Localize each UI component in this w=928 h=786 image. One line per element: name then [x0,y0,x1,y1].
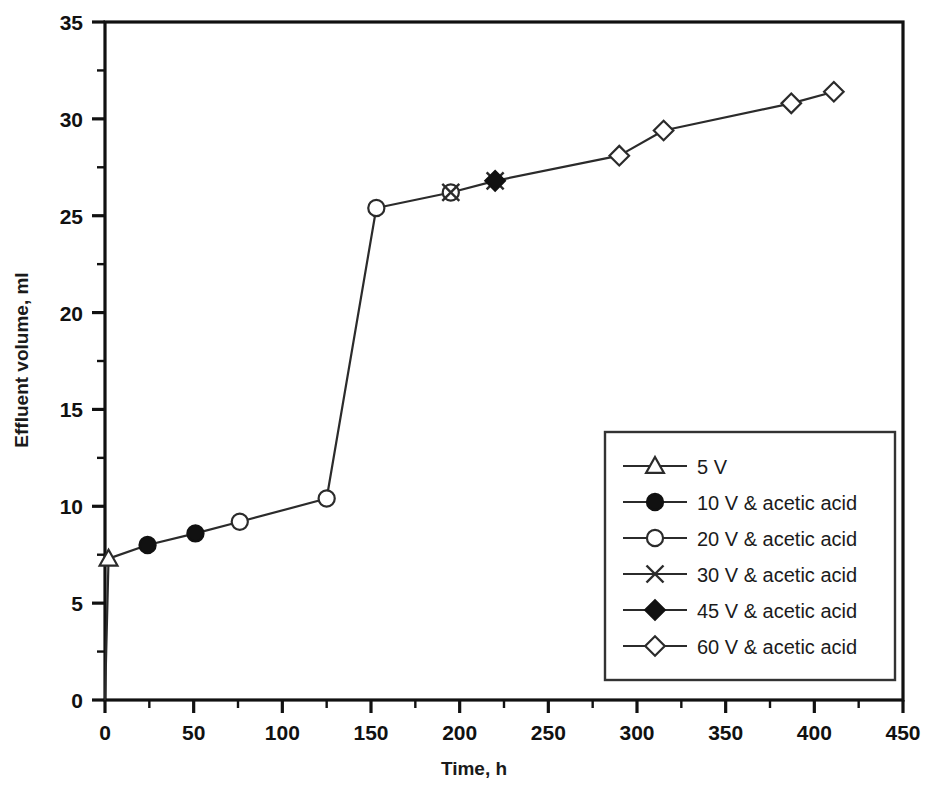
y-tick-label: 5 [71,592,83,615]
y-tick-label: 20 [60,302,83,325]
legend-marker-circle-filled [647,494,663,510]
y-tick-label: 0 [71,689,83,712]
x-axis-title: Time, h [441,758,507,779]
y-tick-label: 10 [60,495,83,518]
legend-label: 60 V & acetic acid [697,636,857,658]
data-point-marker [139,537,155,553]
y-tick-label: 35 [60,11,84,34]
x-tick-label: 200 [442,721,477,744]
x-tick-label: 0 [99,721,111,744]
chart-legend: 5 V10 V & acetic acid20 V & acetic acid3… [605,432,895,680]
legend-label: 20 V & acetic acid [697,528,857,550]
legend-label: 45 V & acetic acid [697,600,857,622]
y-axis-title: Effluent volume, ml [11,272,32,447]
data-point-marker [319,490,335,506]
x-tick-label: 100 [265,721,300,744]
x-tick-label: 250 [531,721,566,744]
legend-label: 10 V & acetic acid [697,492,857,514]
x-tick-label: 150 [353,721,388,744]
x-tick-label: 50 [182,721,205,744]
y-tick-label: 15 [60,398,84,421]
legend-label: 5 V [697,456,728,478]
x-tick-label: 300 [619,721,654,744]
x-tick-label: 400 [797,721,832,744]
y-tick-label: 25 [60,205,84,228]
data-point-marker [368,200,384,216]
legend-marker-circle-open [647,530,663,546]
data-point-marker [187,525,203,541]
y-tick-label: 30 [60,108,83,131]
effluent-volume-line-chart: 050100150200250300350400450 051015202530… [0,0,928,786]
data-point-marker [232,514,248,530]
x-tick-label: 450 [885,721,920,744]
chart-figure: 050100150200250300350400450 051015202530… [0,0,928,786]
x-tick-label: 350 [708,721,743,744]
legend-label: 30 V & acetic acid [697,564,857,586]
